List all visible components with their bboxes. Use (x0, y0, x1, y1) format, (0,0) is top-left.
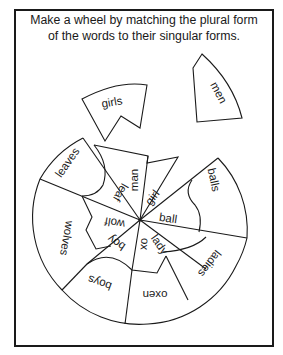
loose-piece-men[interactable]: men (193, 54, 242, 122)
wheel-label-leaf: leaf (111, 181, 131, 204)
wheel-label-wolf: wolf (103, 215, 127, 231)
wheel-label-boys: boys (86, 273, 113, 293)
wheel-label-wolves: wolves (58, 219, 76, 257)
loose-piece-girls[interactable]: girls (82, 84, 147, 141)
wheel-label-leaves: leaves (53, 145, 82, 179)
wheel-label-ladies: ladies (196, 248, 224, 279)
wheel-label-boy: boy (105, 232, 127, 253)
wheel-puzzle: girls men leaves balls (0, 0, 283, 355)
wheel-label-ball: ball (158, 211, 177, 225)
wheel-label-oxen: oxen (143, 289, 168, 301)
wheel-label-girl: girl (143, 188, 162, 207)
wheel-label-ox: ox (138, 238, 151, 251)
wheel-label-balls: balls (206, 167, 223, 193)
wheel-center-dot (138, 218, 141, 221)
wheel-label-lady: lady (149, 232, 171, 256)
